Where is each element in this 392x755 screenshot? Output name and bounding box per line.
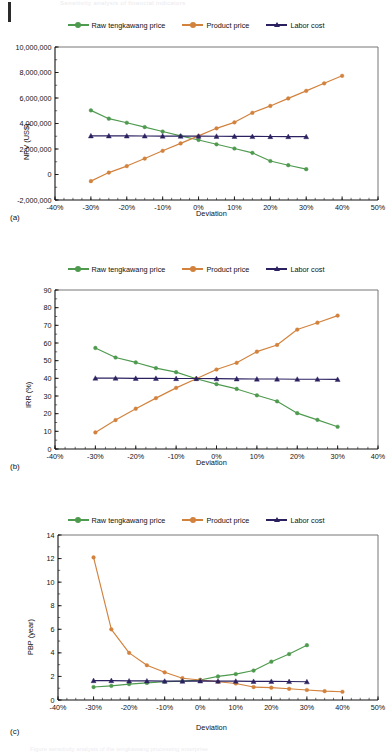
legend-label: Product price bbox=[206, 516, 249, 525]
legend-item-3[interactable]: Labor cost bbox=[266, 516, 324, 525]
series-marker bbox=[233, 121, 237, 125]
series-marker bbox=[304, 167, 308, 171]
series-marker bbox=[145, 663, 149, 667]
series-marker bbox=[305, 688, 309, 692]
series-marker bbox=[316, 418, 320, 422]
legend-circle-icon bbox=[68, 516, 89, 524]
x-tick-label: 40% bbox=[335, 203, 350, 212]
y-tick-label: 40 bbox=[44, 374, 52, 383]
series-marker bbox=[255, 350, 259, 354]
x-tick-label: 30% bbox=[330, 452, 345, 461]
legend-label: Labor cost bbox=[290, 516, 324, 525]
legend-item-1[interactable]: Raw tengkawang price bbox=[68, 21, 166, 30]
x-tick-label: 40% bbox=[335, 703, 350, 712]
y-tick-label: 4 bbox=[51, 648, 55, 657]
x-tick-label: 50% bbox=[371, 203, 386, 212]
series-marker bbox=[336, 314, 340, 318]
y-tick-label: 12 bbox=[47, 554, 55, 563]
series-marker bbox=[174, 370, 178, 374]
series-marker bbox=[269, 660, 273, 664]
series-marker bbox=[268, 104, 272, 108]
series-marker bbox=[323, 689, 327, 693]
legend-label: Product price bbox=[206, 21, 249, 30]
legend-triangle-icon bbox=[266, 21, 287, 29]
chart-legend: Raw tengkawang priceProduct priceLabor c… bbox=[0, 262, 392, 276]
series-marker bbox=[134, 361, 138, 365]
series-line-2 bbox=[94, 557, 343, 691]
series-marker bbox=[235, 361, 239, 365]
series-marker bbox=[109, 684, 113, 688]
x-tick-label: 20% bbox=[264, 703, 279, 712]
legend-label: Raw tengkawang price bbox=[92, 21, 166, 30]
x-tick-label: -20% bbox=[121, 703, 138, 712]
legend-item-2[interactable]: Product price bbox=[182, 21, 249, 30]
legend-item-1[interactable]: Raw tengkawang price bbox=[68, 516, 166, 525]
x-tick-label: 30% bbox=[300, 703, 315, 712]
y-tick-label: -2,000,000 bbox=[17, 196, 51, 205]
series-marker bbox=[295, 328, 299, 332]
series-marker bbox=[109, 627, 113, 631]
series-marker bbox=[340, 74, 344, 78]
y-tick-label: 60 bbox=[44, 339, 52, 348]
series-marker bbox=[215, 382, 219, 386]
series-marker bbox=[316, 321, 320, 325]
series-marker bbox=[163, 670, 167, 674]
series-marker bbox=[127, 651, 131, 655]
x-tick-label: -30% bbox=[85, 703, 102, 712]
y-tick-label: 8,000,000 bbox=[20, 68, 52, 77]
legend-item-3[interactable]: Labor cost bbox=[266, 265, 324, 274]
legend-label: Product price bbox=[206, 265, 249, 274]
series-marker bbox=[143, 125, 147, 129]
series-marker bbox=[341, 690, 345, 694]
x-tick-label: -30% bbox=[82, 203, 99, 212]
chart-legend: Raw tengkawang priceProduct priceLabor c… bbox=[0, 513, 392, 527]
legend-circle-icon bbox=[182, 516, 203, 524]
y-tick-label: 0 bbox=[51, 696, 55, 705]
series-marker bbox=[269, 686, 273, 690]
x-tick-label: 40% bbox=[371, 452, 386, 461]
panel-tag-b: (b) bbox=[10, 462, 20, 471]
legend-item-2[interactable]: Product price bbox=[182, 516, 249, 525]
panel-tag-c: (c) bbox=[10, 727, 19, 736]
legend-triangle-icon bbox=[266, 265, 287, 273]
series-marker bbox=[125, 164, 129, 168]
chart-legend: Raw tengkawang priceProduct priceLabor c… bbox=[0, 18, 392, 32]
series-marker bbox=[154, 366, 158, 370]
x-tick-label: -20% bbox=[118, 203, 135, 212]
series-marker bbox=[92, 556, 96, 560]
series-marker bbox=[322, 81, 326, 85]
series-marker bbox=[336, 425, 340, 429]
x-tick-label: -10% bbox=[154, 203, 171, 212]
series-line-1 bbox=[95, 348, 337, 427]
series-marker bbox=[174, 386, 178, 390]
y-tick-label: 90 bbox=[44, 286, 52, 295]
series-marker bbox=[234, 672, 238, 676]
y-axis-title: NPV (US$) bbox=[22, 123, 31, 160]
y-tick-label: 80 bbox=[44, 303, 52, 312]
legend-item-2[interactable]: Product price bbox=[182, 265, 249, 274]
legend-label: Raw tengkawang price bbox=[92, 265, 166, 274]
legend-item-1[interactable]: Raw tengkawang price bbox=[68, 265, 166, 274]
y-tick-label: 10,000,000 bbox=[16, 43, 52, 52]
x-tick-label: 0% bbox=[195, 703, 206, 712]
x-axis-title: Deviation bbox=[196, 458, 227, 467]
series-marker bbox=[287, 652, 291, 656]
series-marker bbox=[286, 163, 290, 167]
series-marker bbox=[154, 396, 158, 400]
y-tick-label: 30 bbox=[44, 392, 52, 401]
series-marker bbox=[252, 669, 256, 673]
y-tick-label: 20 bbox=[44, 409, 52, 418]
series-marker bbox=[233, 147, 237, 151]
series-marker bbox=[275, 343, 279, 347]
faint-page-footer: Figure sensitivity analysis of the tengk… bbox=[30, 746, 360, 754]
legend-circle-icon bbox=[68, 21, 89, 29]
x-axis-title: Deviation bbox=[196, 723, 227, 732]
series-marker bbox=[125, 121, 129, 125]
y-tick-label: 14 bbox=[47, 531, 55, 540]
x-tick-label: 10% bbox=[250, 452, 265, 461]
y-tick-label: 6,000,000 bbox=[20, 94, 52, 103]
legend-item-3[interactable]: Labor cost bbox=[266, 21, 324, 30]
y-tick-label: 50 bbox=[44, 356, 52, 365]
y-tick-label: 2 bbox=[51, 672, 55, 681]
x-tick-label: 20% bbox=[263, 203, 278, 212]
